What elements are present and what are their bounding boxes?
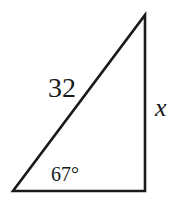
triangle-shape (13, 15, 145, 191)
angle-label: 67° (51, 163, 79, 185)
right-triangle-diagram: 32 67° x (0, 0, 176, 212)
hypotenuse-label: 32 (48, 72, 76, 103)
side-x-label: x (154, 93, 167, 122)
